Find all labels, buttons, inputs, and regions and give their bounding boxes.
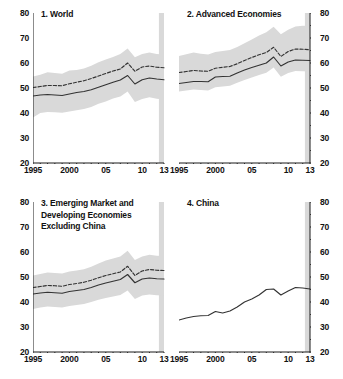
x-tick-label: 10 (138, 166, 147, 175)
panel-3-emerging-market: 3. Emerging Market and Developing Econom… (0, 189, 172, 379)
y-tick-label: 60 (320, 248, 329, 257)
x-tick-label: 13 (305, 166, 314, 175)
y-tick-label: 30 (20, 134, 29, 143)
x-tick-label: 10 (284, 355, 293, 364)
panel-2-plot-area (179, 13, 310, 163)
y-tick-label: 50 (320, 84, 329, 93)
y-tick-label: 40 (320, 109, 329, 118)
y-tick-label: 50 (20, 273, 29, 282)
y-tick-label: 80 (320, 9, 329, 18)
series-line-solid (179, 288, 310, 321)
panel-1-x-axis-labels: 19952000051013 (0, 166, 172, 180)
y-tick-label: 30 (20, 323, 29, 332)
panel-2-x-axis-labels: 19952000051013 (171, 166, 343, 180)
y-tick-label: 80 (20, 9, 29, 18)
panel-1-title: 1. World (41, 9, 73, 21)
x-tick-label: 05 (247, 166, 256, 175)
panel-3-y-axis-labels: 20304050607080 (0, 189, 29, 379)
panel-4-plot-area (179, 202, 310, 352)
y-tick-label: 70 (20, 223, 29, 232)
y-tick-label: 70 (320, 34, 329, 43)
y-tick-label: 40 (20, 109, 29, 118)
panel-3-x-axis-labels: 19952000051013 (0, 355, 172, 369)
x-tick-label: 13 (305, 355, 314, 364)
x-tick-label: 10 (138, 355, 147, 364)
y-tick-label: 50 (320, 273, 329, 282)
panel-2-y-axis-labels: 20304050607080 (312, 0, 343, 190)
figure-panel-grid: 1. World 20304050607080 19952000051013 2… (0, 0, 343, 379)
x-tick-label: 05 (101, 355, 110, 364)
panel-4-svg (179, 202, 311, 353)
interquartile-band (33, 49, 164, 118)
x-tick-label: 1995 (170, 355, 188, 364)
y-tick-label: 70 (20, 34, 29, 43)
panel-1-y-axis-labels: 20304050607080 (0, 0, 29, 190)
y-tick-label: 60 (20, 248, 29, 257)
y-tick-label: 30 (320, 323, 329, 332)
x-tick-label: 2000 (60, 166, 78, 175)
panel-3-title: 3. Emerging Market and Developing Econom… (41, 198, 134, 233)
panel-1-world: 1. World 20304050607080 19952000051013 (0, 0, 172, 190)
x-tick-label: 05 (101, 166, 110, 175)
forecast-shading (305, 202, 310, 352)
panel-2-advanced-economies: 2. Advanced Economies 20304050607080 199… (171, 0, 343, 190)
x-tick-label: 2000 (206, 166, 224, 175)
y-tick-label: 60 (320, 59, 329, 68)
y-tick-label: 80 (320, 198, 329, 207)
panel-4-title: 4. China (187, 198, 219, 210)
x-tick-label: 2000 (206, 355, 224, 364)
x-tick-label: 13 (159, 166, 168, 175)
y-tick-label: 40 (320, 298, 329, 307)
panel-2-svg (179, 13, 311, 164)
panel-1-svg (33, 13, 165, 164)
x-tick-label: 10 (284, 166, 293, 175)
panel-4-china: 4. China 20304050607080 19952000051013 (171, 189, 343, 379)
x-tick-label: 05 (247, 355, 256, 364)
panel-2-title: 2. Advanced Economies (187, 9, 281, 21)
panel-4-y-axis-labels: 20304050607080 (312, 189, 343, 379)
y-tick-label: 50 (20, 84, 29, 93)
x-tick-label: 1995 (170, 166, 188, 175)
panel-4-x-axis-labels: 19952000051013 (171, 355, 343, 369)
interquartile-band (33, 251, 164, 309)
y-tick-label: 80 (20, 198, 29, 207)
y-tick-label: 30 (320, 134, 329, 143)
x-tick-label: 2000 (60, 355, 78, 364)
y-tick-label: 60 (20, 59, 29, 68)
panel-1-plot-area (33, 13, 164, 163)
y-tick-label: 40 (20, 298, 29, 307)
x-tick-label: 1995 (24, 166, 42, 175)
y-tick-label: 70 (320, 223, 329, 232)
x-tick-label: 1995 (24, 355, 42, 364)
x-tick-label: 13 (159, 355, 168, 364)
